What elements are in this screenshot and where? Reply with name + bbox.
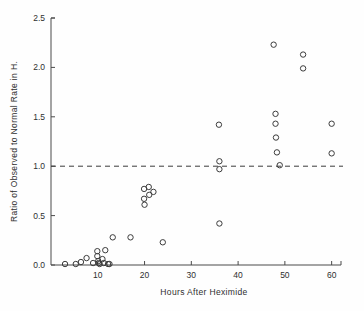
data-point	[217, 221, 222, 226]
x-axis-title: Hours After Heximide	[160, 287, 247, 297]
data-point	[73, 261, 78, 266]
data-point	[151, 189, 156, 194]
data-point	[271, 42, 276, 47]
data-point	[78, 259, 83, 264]
y-tick-label: 0.0	[33, 260, 45, 270]
data-point	[128, 235, 133, 240]
data-point	[217, 159, 222, 164]
data-point	[329, 151, 334, 156]
y-tick-label: 1.0	[33, 161, 45, 171]
data-point	[216, 122, 221, 127]
y-tick-label: 1.5	[33, 112, 45, 122]
axis-labels-group: 0.00.51.01.52.02.5102030405060Hours Afte…	[9, 13, 337, 297]
figure-container: 0.00.51.01.52.02.5102030405060Hours Afte…	[0, 0, 364, 311]
x-tick-label: 50	[280, 270, 290, 280]
data-points-group	[62, 42, 334, 267]
data-point	[273, 111, 278, 116]
y-axis-title: Ratio of Observed to Normal Rate in H.	[9, 61, 19, 222]
scatter-plot: 0.00.51.01.52.02.5102030405060Hours Afte…	[0, 0, 364, 311]
data-point	[84, 255, 89, 260]
y-tick-label: 2.5	[33, 13, 45, 23]
x-tick-label: 10	[93, 270, 103, 280]
x-tick-label: 30	[187, 270, 197, 280]
data-point	[62, 261, 67, 266]
data-point	[329, 121, 334, 126]
data-point	[103, 247, 108, 252]
data-point	[274, 150, 279, 155]
data-point	[273, 121, 278, 126]
data-point	[277, 163, 282, 168]
data-point	[142, 202, 147, 207]
y-tick-label: 2.0	[33, 62, 45, 72]
axes	[51, 18, 341, 265]
data-point	[217, 166, 222, 171]
data-point	[300, 52, 305, 57]
data-point	[300, 66, 305, 71]
y-tick-label: 0.5	[33, 211, 45, 221]
x-tick-label: 40	[233, 270, 243, 280]
x-tick-label: 60	[327, 270, 337, 280]
data-point	[110, 235, 115, 240]
data-point	[141, 196, 146, 201]
data-point	[273, 135, 278, 140]
data-point	[160, 240, 165, 245]
data-point	[146, 184, 151, 189]
x-tick-label: 20	[140, 270, 150, 280]
